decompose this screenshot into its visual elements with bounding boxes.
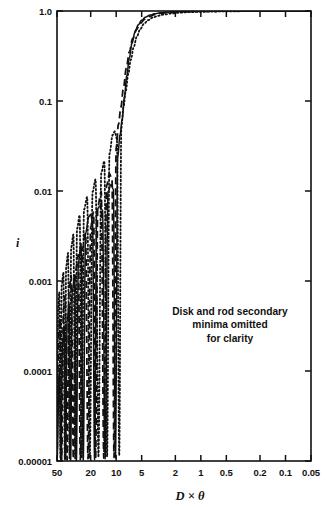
x-tick-label: 0.2 — [254, 467, 267, 478]
x-tick-label: 2 — [173, 467, 178, 478]
plot-svg — [0, 0, 330, 507]
x-tick-label: 10 — [111, 467, 121, 478]
x-tick-label: 0.1 — [279, 467, 292, 478]
x-tick-label: 1 — [198, 467, 203, 478]
plot-annotation: Disk and rod secondary minima omitted fo… — [160, 305, 300, 345]
annotation-line-2: minima omitted — [160, 318, 300, 331]
x-axis-title: D × θ — [176, 489, 205, 504]
annotation-line-1: Disk and rod secondary — [160, 305, 300, 318]
y-tick-label: 1.0 — [39, 6, 52, 17]
x-tick-label: 50 — [52, 467, 62, 478]
data-curves — [57, 11, 311, 461]
x-tick-label: 0.5 — [220, 467, 233, 478]
annotation-line-3: for clarity — [160, 332, 300, 345]
x-tick-label: 0.05 — [302, 467, 320, 478]
x-tick-label: 20 — [86, 467, 96, 478]
y-tick-label: 0.1 — [39, 96, 52, 107]
x-tick-label: 5 — [139, 467, 144, 478]
y-tick-label: 0.00001 — [18, 456, 52, 467]
y-tick-label: 0.0001 — [24, 366, 52, 377]
y-axis-title: i — [16, 236, 19, 251]
y-tick-label: 0.01 — [34, 186, 52, 197]
y-tick-label: 0.001 — [29, 276, 52, 287]
figure-canvas: 1.00.10.010.0010.00010.00001 5020105210.… — [0, 0, 330, 507]
